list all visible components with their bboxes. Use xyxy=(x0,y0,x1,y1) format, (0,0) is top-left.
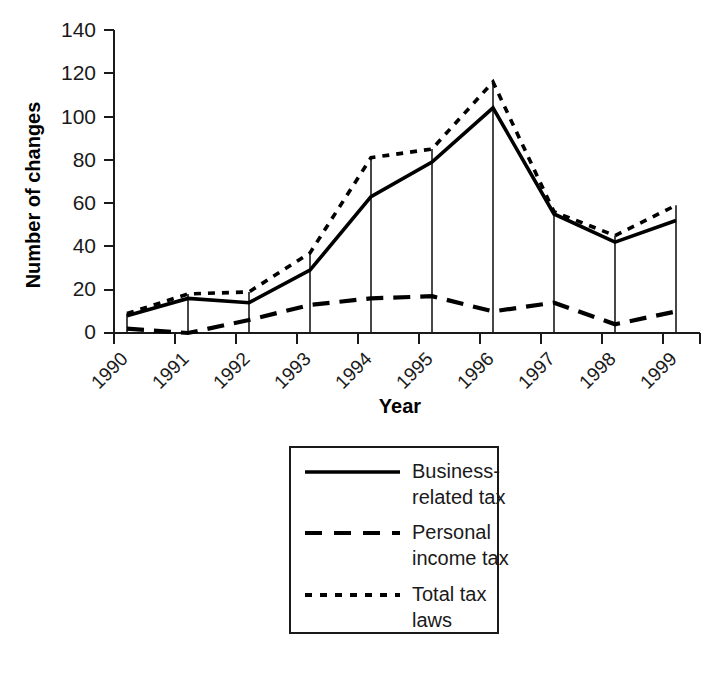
legend-label-business-related-tax-line1: Business- xyxy=(412,460,500,482)
y-tick-label-100: 100 xyxy=(61,105,96,128)
y-tick-label-0: 0 xyxy=(84,320,96,343)
legend-label-total-tax-laws-line2: laws xyxy=(412,609,452,631)
legend-label-personal-income-tax-line2: income tax xyxy=(412,547,509,569)
y-tick-label-40: 40 xyxy=(73,234,96,257)
legend-label-personal-income-tax-line1: Personal xyxy=(412,521,491,543)
legend-label-business-related-tax-line2: related tax xyxy=(412,486,505,508)
legend-label-total-tax-laws-line1: Total tax xyxy=(412,583,486,605)
y-axis-title: Number of changes xyxy=(22,102,44,289)
x-axis-title: Year xyxy=(379,395,421,417)
y-tick-label-80: 80 xyxy=(73,148,96,171)
figure-background xyxy=(0,0,725,676)
y-tick-label-120: 120 xyxy=(61,61,96,84)
y-tick-label-140: 140 xyxy=(61,18,96,41)
chart-figure: Number of changes 140 120 100 80 60 40 2… xyxy=(0,0,725,676)
line-chart-svg: Number of changes 140 120 100 80 60 40 2… xyxy=(0,0,725,676)
y-tick-label-60: 60 xyxy=(73,191,96,214)
y-tick-label-20: 20 xyxy=(73,277,96,300)
